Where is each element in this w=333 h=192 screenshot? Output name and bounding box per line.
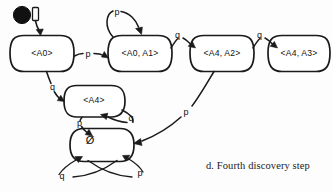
edge-label-a0-to-a4: q [50, 82, 55, 92]
state-a0-label: <A0> [31, 48, 52, 58]
automaton-figure: <A0> <A0, A1> <A4, A2> <A4, A3> <A4> Ø A… [0, 0, 333, 192]
transition-a0a1-self-p: p [107, 7, 142, 37]
initial-state-marker [13, 6, 43, 35]
state-a0[interactable]: <A0> [10, 36, 74, 72]
edge-empty-self-q-path [73, 161, 117, 178]
state-a4[interactable]: <A4> [64, 86, 125, 118]
edge-label-a4-self: q [128, 113, 133, 123]
edge-a4-self-path2 [108, 117, 127, 123]
edge-label-empty-self-p: p [137, 168, 142, 178]
edge-label-a0-to-a0a1: p [85, 49, 90, 59]
edge-a0-to-a0a1-path2 [94, 54, 103, 56]
state-a4-a2-label: <A4, A2> [204, 48, 241, 58]
transition-a4a2-to-empty: p [134, 72, 215, 146]
figure-caption: d. Fourth discovery step [206, 160, 310, 171]
state-a4-a2[interactable]: <A4, A2> [190, 36, 254, 72]
edge-label-a4a2-to-empty: p [183, 107, 188, 117]
edge-label-a0a1-self: p [114, 7, 119, 17]
state-a4-label: <A4> [83, 95, 104, 105]
transition-a0-to-a0a1: p [75, 49, 109, 59]
edge-a4a2-to-empty-path2 [142, 117, 181, 141]
initial-dot-icon [13, 6, 30, 23]
edge-a0a1-to-a4a2-path2 [183, 38, 190, 44]
edge-a4a2-to-empty-path [192, 72, 214, 107]
arrowhead-start-to-a0 [36, 29, 43, 36]
edge-label-a4-to-empty: p [77, 118, 82, 128]
arrowhead-a0a1-self [136, 27, 143, 35]
state-a4-a3[interactable]: <A4, A3> [268, 36, 330, 72]
state-a0-a1[interactable]: <A0, A1> [108, 36, 172, 72]
edge-empty-self-p-path [88, 161, 132, 178]
edge-label-a4a2-to-a4a3: q [257, 30, 262, 40]
edge-label-empty-self-q: q [59, 171, 64, 181]
initial-flag-icon [33, 8, 39, 21]
edge-a0-to-a4-path2 [55, 92, 60, 98]
state-a4-a3-label: <A4, A3> [281, 48, 318, 58]
transition-a0a1-to-a4a2: q [171, 30, 196, 48]
edge-a0a1-self-path [107, 11, 113, 37]
edge-label-a0a1-to-a4a2: q [175, 30, 180, 40]
edge-a0-to-a0a1-path [75, 54, 84, 57]
edge-a0a1-self-path2 [121, 12, 139, 28]
transition-a0-to-a4: q [47, 72, 65, 102]
state-a0-a1-label: <A0, A1> [122, 48, 159, 58]
